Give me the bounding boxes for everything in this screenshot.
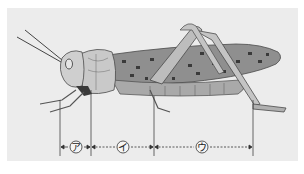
- label-i: イ: [118, 142, 128, 153]
- label-a: ア: [71, 142, 81, 153]
- label-u: ウ: [197, 142, 207, 153]
- antennae: [17, 30, 62, 62]
- compound-eye: [66, 59, 73, 69]
- grasshopper-diagram: ア イ ウ: [0, 0, 304, 174]
- forewing: [108, 44, 281, 85]
- head: [60, 51, 84, 87]
